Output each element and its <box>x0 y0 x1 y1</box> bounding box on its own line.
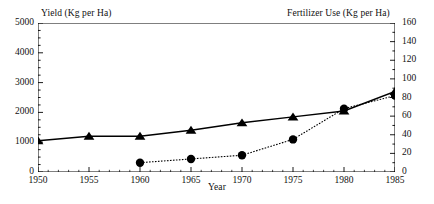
right-tick-label: 100 <box>402 73 434 83</box>
right-tick-label: 140 <box>402 36 434 46</box>
data-point-circle <box>340 104 348 112</box>
left-tick-label: 4000 <box>0 47 34 57</box>
right-tick-label: 60 <box>402 110 434 120</box>
data-point-circle <box>187 155 195 163</box>
right-tick-label: 20 <box>402 147 434 157</box>
plot-area <box>38 23 395 172</box>
left-tick-label: 3000 <box>0 77 34 87</box>
x-axis-title: Year <box>0 182 434 192</box>
chart-figure: Yield (Kg per Ha) Fertilizer Use (Kg per… <box>0 0 434 204</box>
left-tick-label: 2000 <box>0 106 34 116</box>
left-tick-label: 1000 <box>0 136 34 146</box>
right-tick-label: 120 <box>402 54 434 64</box>
right-tick-label: 160 <box>402 17 434 27</box>
right-axis-title: Fertilizer Use (Kg per Ha) <box>287 8 390 18</box>
data-point-circle <box>238 151 246 159</box>
left-tick-label: 5000 <box>0 17 34 27</box>
right-tick-label: 40 <box>402 129 434 139</box>
data-point-circle <box>289 135 297 143</box>
left-axis-title: Yield (Kg per Ha) <box>41 8 112 18</box>
series-line-1 <box>140 96 395 163</box>
chart-canvas <box>38 23 395 172</box>
series-line-0 <box>38 92 395 141</box>
data-point-circle <box>136 158 144 166</box>
right-tick-label: 80 <box>402 92 434 102</box>
